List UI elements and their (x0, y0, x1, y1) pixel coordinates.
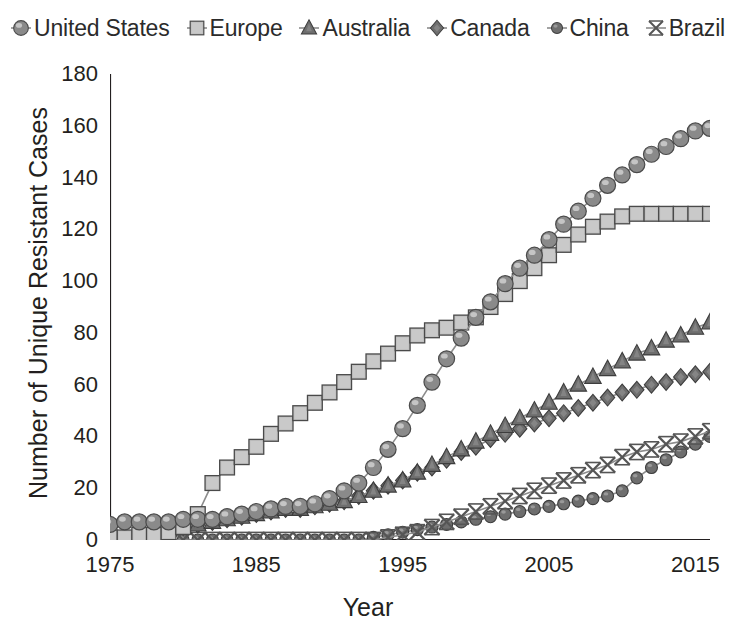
legend-marker-x-icon (646, 18, 666, 38)
legend-item-brazil[interactable]: Brazil (646, 17, 725, 40)
y-axis-title: Number of Unique Resistant Cases (23, 68, 53, 538)
chart-container: United StatesEuropeAustraliaCanadaChinaB… (0, 0, 736, 635)
y-tick-label: 100 (26, 270, 98, 292)
y-tick-label: 0 (26, 529, 98, 551)
legend-marker-diamond-icon (427, 18, 447, 38)
series-united-states (110, 120, 710, 532)
plot-area (110, 74, 710, 540)
x-tick-label: 2005 (504, 554, 594, 576)
x-tick-label: 1985 (211, 554, 301, 576)
plot-svg (110, 74, 710, 540)
legend-item-europe[interactable]: Europe (187, 17, 283, 40)
legend-marker-triangle-icon (299, 18, 319, 38)
y-tick-label: 120 (26, 218, 98, 240)
legend-label: Canada (450, 17, 529, 40)
x-axis-title: Year (0, 592, 736, 622)
y-tick-label: 20 (26, 477, 98, 499)
legend-marker-circle-icon (11, 18, 31, 38)
legend-label: Europe (210, 17, 283, 40)
y-tick-label: 180 (26, 63, 98, 85)
legend-item-canada[interactable]: Canada (427, 17, 529, 40)
legend-label: Australia (322, 17, 410, 40)
legend-label: China (570, 17, 629, 40)
chart-legend: United StatesEuropeAustraliaCanadaChinaB… (0, 8, 736, 48)
x-tick-label: 1995 (358, 554, 448, 576)
y-tick-label: 40 (26, 425, 98, 447)
x-tick-label: 1975 (65, 554, 155, 576)
legend-label: Brazil (669, 17, 725, 40)
y-tick-label: 140 (26, 167, 98, 189)
y-tick-label: 160 (26, 115, 98, 137)
legend-label: United States (34, 17, 169, 40)
legend-marker-circle-small-icon (547, 18, 567, 38)
y-tick-label: 60 (26, 374, 98, 396)
legend-item-australia[interactable]: Australia (299, 17, 410, 40)
x-tick-label: 2015 (650, 554, 736, 576)
legend-item-china[interactable]: China (547, 17, 629, 40)
y-tick-label: 80 (26, 322, 98, 344)
legend-item-united-states[interactable]: United States (11, 17, 169, 40)
legend-marker-square-icon (187, 18, 207, 38)
